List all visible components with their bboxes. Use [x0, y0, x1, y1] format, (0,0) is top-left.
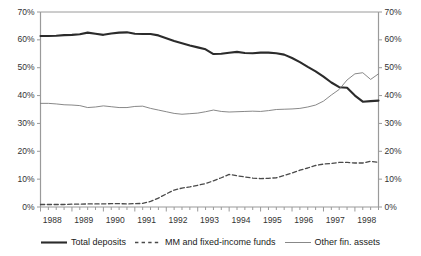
x-axis-tick-label: 1994 [231, 216, 250, 225]
legend-item-label: MM and fixed-income funds [165, 238, 276, 247]
legend-item[interactable]: MM and fixed-income funds [135, 238, 276, 247]
y-axis-right-tick-label: 20% [385, 147, 402, 156]
y-axis-left-tick-label: 20% [17, 147, 34, 156]
y-axis-left-tick-label: 60% [17, 35, 34, 44]
y-axis-left-tick-label: 0% [22, 203, 34, 212]
series-line-total-deposits [41, 32, 379, 101]
x-axis-tick-label: 1996 [294, 216, 313, 225]
x-axis-tick-label: 1997 [326, 216, 345, 225]
x-axis-tick-label: 1990 [106, 216, 125, 225]
series-line-mm-and-fixed-income-funds [41, 161, 379, 204]
dashed-line-swatch [135, 239, 161, 246]
x-axis-tick-label: 1993 [200, 216, 219, 225]
legend-item-label: Other fin. assets [315, 238, 381, 247]
chart-legend: Total depositsMM and fixed-income fundsO… [0, 233, 421, 251]
legend-item[interactable]: Other fin. assets [285, 238, 381, 247]
chart-series [41, 32, 379, 204]
y-axis-right-tick-label: 40% [385, 91, 402, 100]
y-axis-right-tick-label: 0% [385, 203, 397, 212]
y-axis-left-tick-label: 10% [17, 175, 34, 184]
solid-thick-line-swatch [41, 239, 67, 246]
x-axis-tick-label: 1995 [263, 216, 282, 225]
y-axis-left-tick-label: 40% [17, 91, 34, 100]
y-axis-right-tick-label: 30% [385, 119, 402, 128]
legend-item-label: Total deposits [71, 238, 126, 247]
solid-thin-line-swatch [285, 239, 311, 246]
y-axis-right-tick-label: 50% [385, 63, 402, 72]
y-axis-left-tick-label: 70% [17, 8, 34, 17]
x-axis-tick-label: 1991 [137, 216, 156, 225]
y-axis-left-tick-label: 50% [17, 63, 34, 72]
y-axis-right-tick-label: 70% [385, 8, 402, 17]
legend-item[interactable]: Total deposits [41, 238, 126, 247]
x-axis-tick-label: 1989 [74, 216, 93, 225]
x-axis-tick-label: 1988 [43, 216, 62, 225]
y-axis-right-tick-label: 60% [385, 35, 402, 44]
x-axis-tick-label: 1992 [169, 216, 188, 225]
y-axis-left-tick-label: 30% [17, 119, 34, 128]
y-axis-right-tick-label: 10% [385, 175, 402, 184]
x-axis-tick-label: 1998 [357, 216, 376, 225]
chart-container: 0%10%20%30%40%50%60%70% 0%10%20%30%40%50… [0, 0, 421, 256]
